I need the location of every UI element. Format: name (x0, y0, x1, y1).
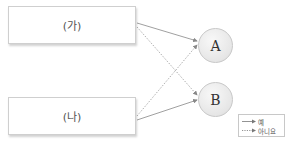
edge-na-to-a-dotted (137, 45, 197, 116)
legend: 예 아니요 (238, 114, 285, 137)
edge-ga-to-a-solid (137, 23, 197, 41)
solid-arrow-icon (242, 119, 256, 124)
target-circle-a: A (198, 28, 233, 63)
source-label-na: (나) (63, 108, 82, 124)
edge-na-to-b-solid (137, 100, 197, 120)
target-circle-b: B (198, 82, 233, 117)
dotted-arrow-icon (242, 128, 256, 133)
source-box-na: (나) (8, 97, 136, 135)
source-box-ga: (가) (8, 6, 136, 44)
target-label-a: A (210, 38, 220, 54)
target-label-b: B (210, 92, 220, 108)
legend-row-dotted: 아니요 (242, 126, 281, 135)
edge-ga-to-b-dotted (137, 27, 197, 95)
legend-dotted-label: 아니요 (258, 126, 276, 136)
source-label-ga: (가) (63, 17, 82, 33)
